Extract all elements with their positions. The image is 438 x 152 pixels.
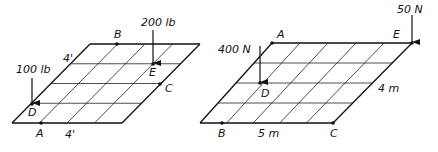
point-label: B bbox=[218, 127, 226, 140]
point-label: A bbox=[35, 127, 44, 140]
point-label: B bbox=[114, 28, 122, 41]
force-label: 50 N bbox=[397, 3, 423, 16]
point-marker bbox=[115, 42, 119, 46]
right-plate-figure: 400 N50 NABCDE5 m4 m bbox=[200, 3, 423, 140]
left-plate-figure: 100 lb200 lbABCDE4'4' bbox=[12, 16, 200, 141]
dimension-label: 4 m bbox=[378, 82, 399, 95]
point-marker bbox=[258, 81, 262, 85]
force-label: 400 N bbox=[218, 43, 251, 56]
point-label: D bbox=[28, 106, 36, 119]
point-label: E bbox=[393, 28, 400, 41]
point-label: E bbox=[149, 66, 156, 79]
point-marker bbox=[158, 82, 162, 86]
dimension-label: 4' bbox=[65, 128, 75, 141]
point-label: C bbox=[330, 127, 338, 140]
force-label: 100 lb bbox=[16, 63, 51, 76]
point-label: C bbox=[165, 82, 173, 95]
point-marker bbox=[220, 121, 224, 125]
dimension-label: 4' bbox=[63, 52, 73, 65]
point-marker bbox=[270, 41, 274, 45]
point-label: A bbox=[276, 28, 285, 41]
point-label: D bbox=[261, 87, 269, 100]
force-label: 200 lb bbox=[141, 16, 176, 29]
point-marker bbox=[410, 41, 414, 45]
dimension-label: 5 m bbox=[258, 127, 279, 140]
point-marker bbox=[39, 121, 43, 125]
plate-diagrams: 100 lb200 lbABCDE4'4' 400 N50 NABCDE5 m4… bbox=[0, 0, 438, 152]
point-marker bbox=[331, 121, 335, 125]
